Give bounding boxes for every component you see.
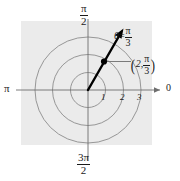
polar-axis-arrowhead [154, 87, 160, 92]
point-coordinate-label: (2, π 3 ) [130, 54, 156, 76]
point-angle-numerator: π [143, 54, 150, 66]
point-radius-value: 2, [136, 58, 144, 69]
plot-panel-background [21, 21, 152, 145]
radial-tick-label-2: 2 [120, 92, 125, 102]
axis-label-zero: 0 [166, 83, 171, 93]
radial-tick-label-3: 3 [137, 92, 142, 102]
axis-label-pi-over-2: π 2 [80, 3, 88, 27]
axis-label-3pi-over-2: 3π 2 [77, 152, 90, 176]
radial-tick-label-1: 1 [101, 92, 106, 102]
polar-coordinate-figure: π 2 3π 2 π 0 θ= π 3 (2, π 3 ) 1 2 3 [0, 0, 180, 181]
axis-label-top-numerator: π [80, 3, 88, 16]
plotted-point-marker [101, 58, 107, 64]
axis-label-pi: π [4, 83, 10, 94]
point-open-paren: ( [131, 57, 135, 74]
axis-label-bottom-numerator: 3π [77, 152, 90, 165]
point-angle-denominator: 3 [143, 66, 150, 77]
theta-value-numerator: π [125, 26, 132, 38]
theta-annotation: θ= π 3 [114, 26, 132, 48]
axis-label-top-denominator: 2 [80, 16, 88, 28]
point-close-paren: ) [151, 57, 155, 74]
theta-value-denominator: 3 [125, 38, 132, 49]
axis-label-bottom-denominator: 2 [77, 165, 90, 177]
